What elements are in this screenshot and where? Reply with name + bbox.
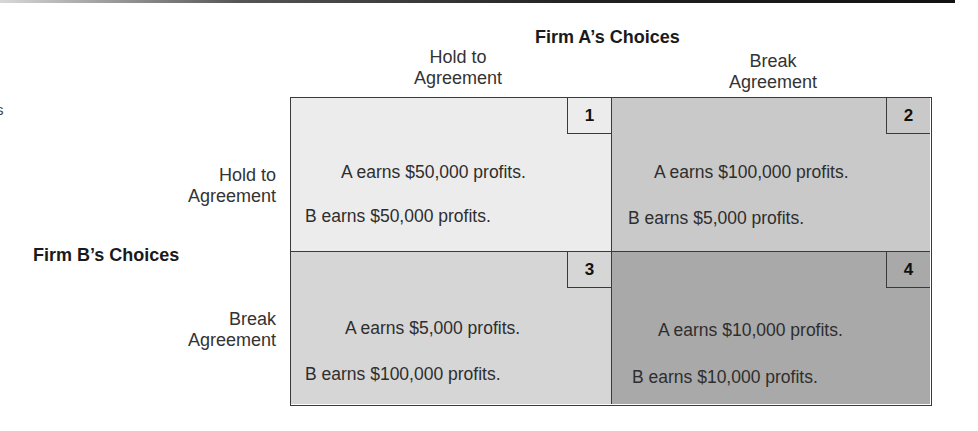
row-header-break-agreement: Break Agreement	[76, 309, 276, 351]
cell-number-badge: 4	[886, 252, 930, 288]
row-header-line1: Break	[76, 309, 276, 330]
row-header-line2: Agreement	[76, 330, 276, 351]
firm-b-payoff-text: B earns $10,000 profits.	[632, 367, 818, 388]
row-header-hold-to-agreement: Hold to Agreement	[76, 165, 276, 207]
cell-number-badge: 1	[567, 98, 611, 134]
matrix-cell-2: 2 A earns $100,000 profits. B earns $5,0…	[612, 98, 930, 252]
column-header-break-agreement: Break Agreement	[693, 51, 853, 93]
firm-a-payoff-text: A earns $10,000 profits.	[658, 320, 843, 341]
column-header-line1: Hold to	[378, 47, 538, 68]
firm-a-payoff-text: A earns $100,000 profits.	[654, 162, 849, 183]
firm-a-payoff-text: A earns $5,000 profits.	[345, 318, 520, 339]
column-header-line1: Break	[693, 51, 853, 72]
payoff-matrix: 1 A earns $50,000 profits. B earns $50,0…	[290, 97, 932, 406]
matrix-cell-4: 4 A earns $10,000 profits. B earns $10,0…	[612, 252, 930, 404]
cell-number-badge: 3	[567, 252, 611, 288]
column-header-line2: Agreement	[378, 68, 538, 89]
matrix-cell-3: 3 A earns $5,000 profits. B earns $100,0…	[291, 252, 612, 404]
firm-b-payoff-text: B earns $100,000 profits.	[305, 364, 501, 385]
top-rule-divider	[0, 0, 955, 3]
matrix-cell-1: 1 A earns $50,000 profits. B earns $50,0…	[291, 98, 612, 252]
row-header-line2: Agreement	[76, 186, 276, 207]
firm-a-payoff-text: A earns $50,000 profits.	[341, 162, 526, 183]
column-header-hold-to-agreement: Hold to Agreement	[378, 47, 538, 89]
cell-number-badge: 2	[886, 98, 930, 134]
firm-a-choices-title: Firm A’s Choices	[535, 27, 680, 48]
firm-b-payoff-text: B earns $5,000 profits.	[628, 208, 804, 229]
clipped-edge-text: s	[0, 101, 4, 118]
column-header-line2: Agreement	[693, 72, 853, 93]
row-header-line1: Hold to	[76, 165, 276, 186]
firm-b-payoff-text: B earns $50,000 profits.	[305, 206, 491, 227]
firm-b-choices-title: Firm B’s Choices	[33, 245, 179, 266]
